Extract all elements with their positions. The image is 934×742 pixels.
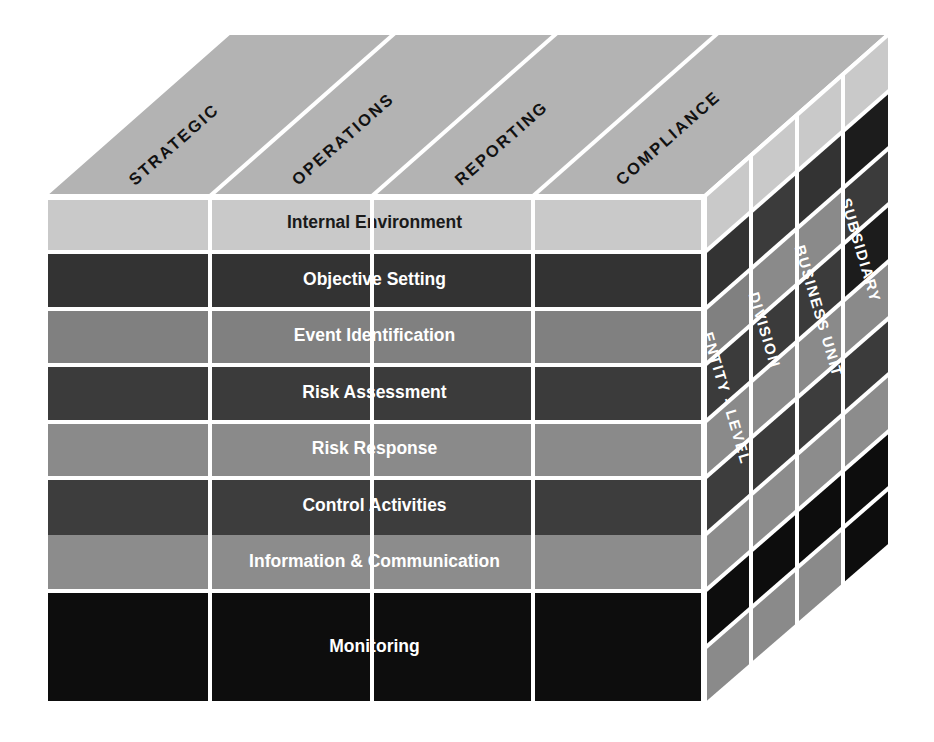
front-row-event-identification [44, 309, 705, 365]
row-separator [44, 250, 705, 254]
coso-erm-cube-diagram: STRATEGIC OPERATIONS REPORTING COMPLIANC… [0, 0, 934, 742]
row-separator [44, 196, 705, 200]
front-row-information-communication [44, 535, 705, 591]
front-row-control-activities [44, 478, 705, 535]
row-separator [44, 589, 705, 593]
right-face-column-subsidiary [843, 33, 890, 585]
column-separator [701, 196, 705, 705]
front-row-internal-environment [44, 196, 705, 252]
front-row-risk-assessment [44, 365, 705, 422]
column-separator [208, 196, 212, 705]
right-face-column-entity-level [705, 156, 751, 705]
row-separator [44, 307, 705, 311]
front-row-risk-response [44, 422, 705, 478]
row-separator [44, 476, 705, 480]
right-face-column-division [751, 115, 797, 665]
front-face: Internal Environment Objective Setting E… [44, 196, 705, 705]
front-row-objective-setting [44, 252, 705, 309]
row-separator [44, 420, 705, 424]
row-separator [44, 701, 705, 705]
column-separator [531, 196, 535, 705]
row-separator [44, 363, 705, 367]
column-separator [44, 196, 48, 705]
column-separator [370, 196, 374, 705]
front-row-monitoring [44, 591, 705, 705]
right-face-column-business-unit [797, 74, 843, 625]
